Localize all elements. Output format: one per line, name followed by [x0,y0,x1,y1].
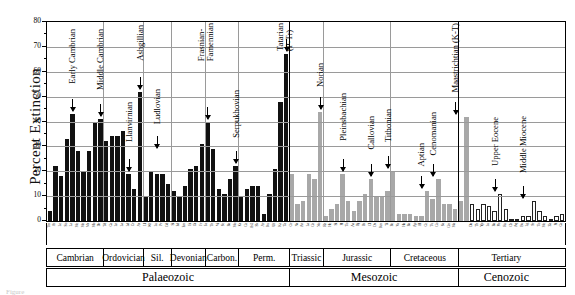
y-tick [42,121,46,122]
stage-code: Ba [493,223,497,227]
stage-code: Cl [369,223,373,226]
stage-code: Ei [189,223,193,226]
annotation-label: Middle Cambrian [96,29,105,90]
stage-code: Bu [521,223,525,227]
stage-code: Ll [144,223,148,226]
y-tick [42,220,46,221]
bar [318,112,322,221]
stage-code: La [121,223,125,226]
y-tick-label: 30 [19,140,41,149]
bar [504,209,508,221]
bar [222,194,226,221]
stage-code: Dr [98,223,102,226]
era-band: PalaeozoicMesozoicCenozoic [46,268,566,287]
y-minor-tick [44,183,47,184]
bar [481,204,485,221]
bar [515,219,519,221]
stage-code: Yp [481,223,485,227]
bar [340,174,344,221]
stage-code: Ca [560,223,564,227]
bar [228,179,232,221]
bar [554,216,558,221]
stage-code: Vi [217,223,221,226]
annotation-label: Tithonian [384,109,393,142]
bar [352,211,356,221]
stage-code: Ch [510,223,514,227]
band-cell: Cambrian [47,249,103,266]
bar [560,214,564,221]
annotation-label: Callovian [367,116,376,149]
stage-code-strip: TmAtLeSoLzMeMnMsMbDrTdCaLnLaLdCrAsLlWfLu… [46,223,566,245]
gridline [47,72,565,73]
annotation-label: Maastrichtian (K-T) [451,23,460,92]
stage-code: Ln [115,223,119,227]
bar [532,201,536,221]
y-tick [42,195,46,196]
stage-code: Lu [155,223,159,227]
bar [104,141,108,221]
gridline [47,97,565,98]
stage-code: Ns [296,223,300,227]
gridline [47,196,565,197]
annotation-label: Cenomanian [429,112,438,155]
stage-code: An [301,223,305,227]
annotation-arrow [421,176,422,188]
stage-code: La [307,223,311,226]
stage-code: Gi [194,223,198,226]
stage-code: Al [419,223,423,226]
bar [470,204,474,221]
bar [430,199,434,221]
stage-code: Pl [341,223,345,226]
stage-code: Aq [515,223,519,227]
bar [194,166,198,221]
stage-code: Tn [211,223,215,227]
bar [301,201,305,221]
stage-code: He [329,223,333,227]
y-minor-tick [44,133,47,134]
annotation-arrow [388,156,389,168]
stage-code: Cm [448,223,452,228]
stage-code: Bt [363,223,367,226]
plot-area: Early CambrianMiddle CambrianLlanvirnian… [46,21,566,222]
bar [363,194,367,221]
stage-code: To [346,223,350,226]
bar [498,194,502,221]
bar [464,117,468,221]
band-cell: Cenozoic [458,269,554,286]
band-cell: Jurassic [323,249,391,266]
stage-code: Kz [279,223,283,227]
stage-code: As2 [251,223,255,228]
bar [442,204,446,221]
stage-code: Cr [132,223,136,226]
stage-code: Ap [414,223,418,227]
stage-code: Ce [425,223,429,227]
bar [295,204,299,221]
stage-code: So [65,223,69,226]
y-tick [42,145,46,146]
bar [183,186,187,221]
bar [245,189,249,221]
stage-code: Gr [290,223,294,226]
annotation-arrow [523,186,524,198]
annotation-arrow [100,104,101,116]
stage-code: Co [436,223,440,227]
annotation-arrow [140,77,141,89]
y-tick-label: 20 [19,165,41,174]
stage-code: Ca [110,223,114,227]
stage-code: Fr [200,223,204,226]
annotation-arrow [433,164,434,176]
y-tick-label: 60 [19,66,41,75]
bar [87,151,91,221]
stage-code: Ku [267,223,271,227]
stage-code: Ks [239,223,243,227]
stage-code: Ld [127,223,131,227]
stage-code: Pr [160,223,164,226]
stage-code: Gz [245,223,249,227]
stage-code: To [538,223,542,226]
bar [537,211,541,221]
bar [278,102,282,221]
stage-code: Ox [374,223,378,227]
annotation-arrow [157,136,158,148]
bar [543,216,547,221]
figure-caption: Figure [6,288,24,295]
